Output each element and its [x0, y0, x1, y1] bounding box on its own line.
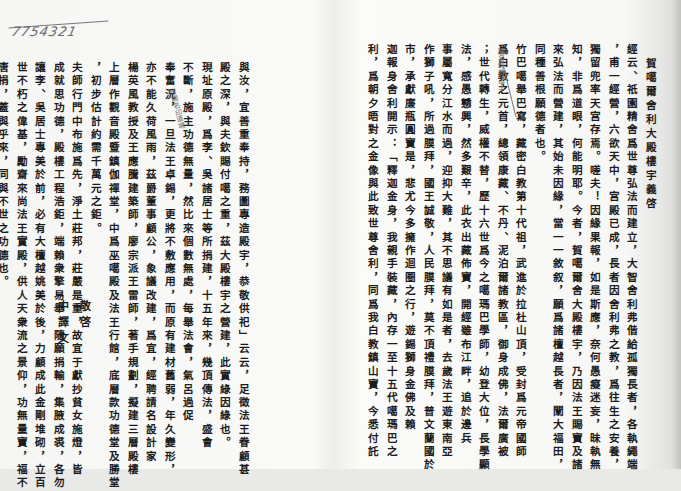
- signature-closing: 敬啓: [75, 300, 94, 348]
- signature-block: 敬啓 中譯文: [52, 300, 93, 348]
- text-column: 迦報身舍利開示：「釋迦金身，我親手裝藏，內存一至十五代噶瑪巴之: [382, 44, 401, 473]
- text-column: 讓李、吳居士專美於前，必有大檀越姚美於後，力顧成此金剛堆砌，立百: [30, 62, 49, 491]
- text-column: 上層作觀音殿暨鎮伽禪堂，中爲巫噶殿及法王行館，底層款功德堂及勝堂: [104, 62, 123, 491]
- document-title: 賀噶爾舍利大殿樓宇義啓: [641, 44, 660, 473]
- text-column: 唐捐，蓋與乎來，同與不世之功德也。: [0, 62, 12, 491]
- handwritten-number: 7754321: [10, 24, 78, 39]
- page-edge-shadow: [671, 0, 681, 469]
- text-column: 殿之深，與夫欽賜付噶之重，茲大殿樓宇之營建，此實綠因綠也。: [215, 62, 234, 491]
- text-column: 經云、祇園精舍爲世尊弘法而建立，大智舍利弗偕給孤獨長者，各執繩端: [622, 44, 641, 473]
- text-column: 與汝，宜善重奉持，務圖專造殿宇，恭敬供祀」云云，足徵法王眷顧甚: [234, 62, 253, 491]
- text-column: ；世代轉生，威權不替，歷十六世爲今之噶瑪巴學師，幼登大位，長學顯: [474, 44, 493, 473]
- text-column: 亦不能久荷風雨，茲爵董事顧公，象議改建，爲宜，經聘請名設計家: [141, 62, 160, 491]
- handwritten-note: 7754321: [6, 10, 116, 46]
- text-column: 利，爲朝夕晤對之金像與此致世尊舍利，同爲我白教鎮山寶，今悉付託: [363, 44, 382, 473]
- right-page: 賀噶爾舍利大殿樓宇義啓 經云、祇園精舍爲世尊弘法而建立，大智舍利弗偕給孤獨長者，…: [340, 0, 681, 469]
- left-page: 7754321 與汝，宜善重奉持，務圖專造殿宇，恭敬供祀」云云，足徵法王眷顧甚 …: [0, 0, 340, 469]
- text-column: 法，感愚戇興，然多艱辛，此衣出藏佈寶，開經雖布江畔，追於邊兵: [456, 44, 475, 473]
- text-column: ，初步估計約需千萬元之鉅。: [86, 62, 105, 491]
- text-column: 來弘法而營建，其始未因緣，當一一敘叙，願爲諸檀越長者，闡大福田，: [548, 44, 567, 473]
- handwritten-margin-annotation: 附賜名印道場: [172, 88, 202, 138]
- text-column: 楊英風教授及王應騰建築師，廖宗派王雷師，著手規劃，擬建三層殿樓: [123, 62, 142, 491]
- text-column: 世不朽之偉基，勵齋來尚法王實殿，供人天衆流之景仰，功無量寶，福不: [12, 62, 31, 491]
- text-column: 作獅子吼，所過膜拜，國王誠敬，人民膜拜，莫不頂禮膜拜，普文蘭國於: [419, 44, 438, 473]
- handwritten-margin-annotation: 賜名印首法王: [496, 48, 526, 118]
- text-column: ，甫一經營，六欲天中，宮殿已成，長者因舍利弗之教，爲往生之安養，: [604, 44, 623, 473]
- text-column: 成就思功德，殿樓工程浩鉅，端賴衆擎易舉，隨願捐輸，集腋成裘，各勿: [49, 62, 68, 491]
- text-column: 市，承獻廉瓶圓寶是，悲尤今多擁作迴圈之行，遊錫獅身金佛及賴: [400, 44, 419, 473]
- text-column: 知，非爲道眼，何能明耶。今者，賀噶爾舍大殿樓宇，乃因法王賜寶及諸: [567, 44, 586, 473]
- text-column: 獨留兜率天宮存焉。嗟夫！因緣果報，如是斯應，奈何愚癡迷妄，昧執無: [585, 44, 604, 473]
- left-page-columns: 與汝，宜善重奉持，務圖專造殿宇，恭敬供祀」云云，足徵法王眷顧甚 殿之深，與夫欽賜…: [0, 62, 252, 491]
- text-column: 同種善根願德者也。: [530, 44, 549, 473]
- text-column: 事屬寬分江水而過，迎抑大難，其不思議有如是者，去歲法王遊東南亞: [437, 44, 456, 473]
- text-column: 夫師行門中布施爲先，淨土莊邦，莊嚴是重，故宜于獻抄貧女施燈，皆: [67, 62, 86, 491]
- signature-org: 中譯文: [52, 300, 71, 348]
